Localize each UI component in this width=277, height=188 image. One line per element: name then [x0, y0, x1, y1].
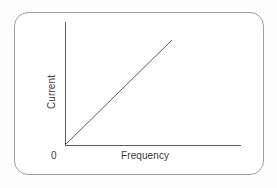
figure-root: Current Frequency 0: [0, 0, 277, 188]
origin-tick-label: 0: [51, 151, 57, 161]
x-axis-label: Frequency: [121, 151, 169, 161]
y-axis-label: Current: [47, 75, 57, 109]
